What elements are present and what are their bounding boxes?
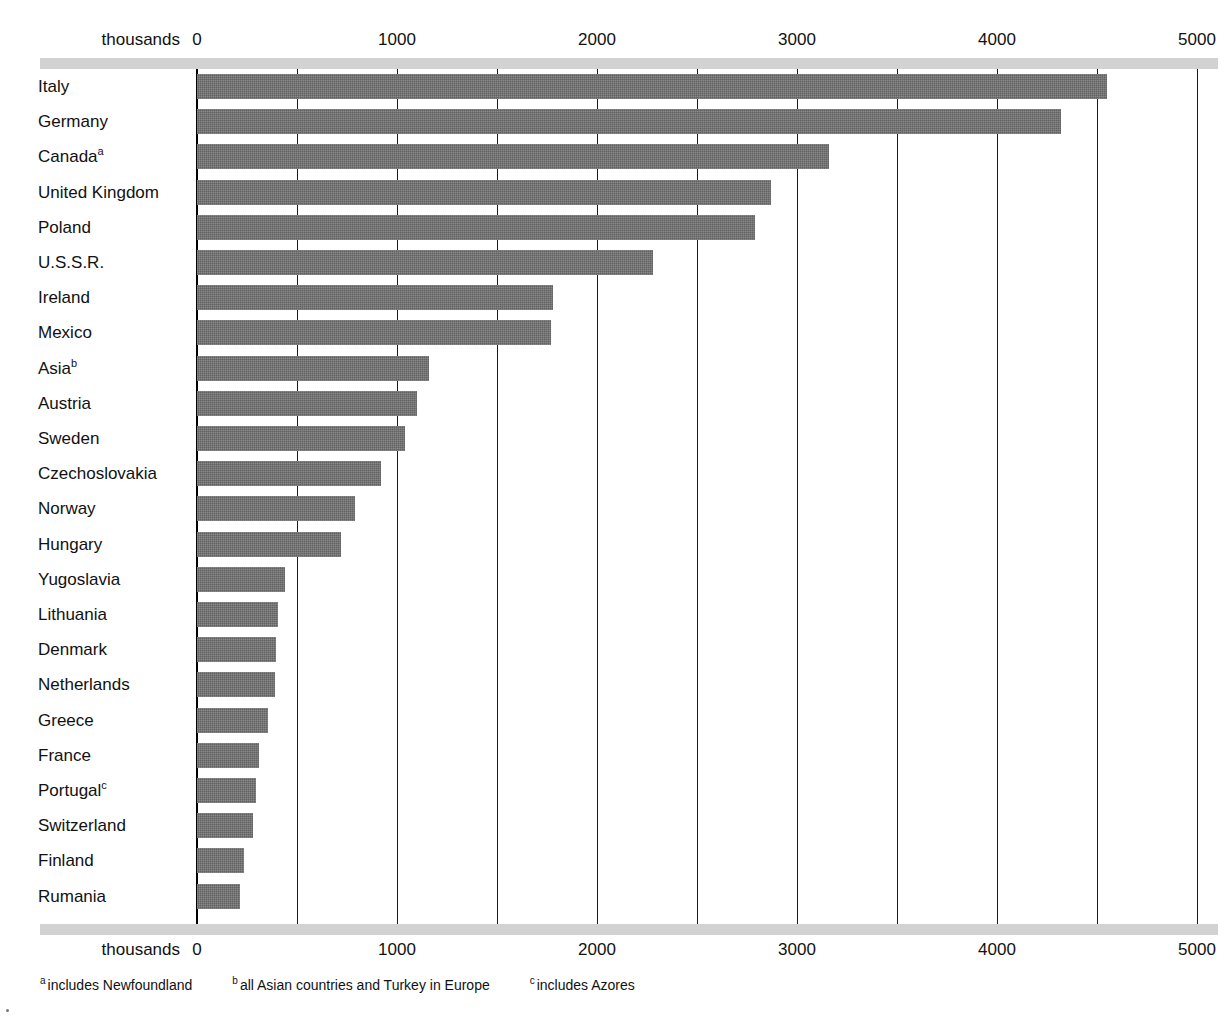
bar: [197, 461, 381, 486]
bar-category-label: Ireland: [38, 280, 90, 315]
axis-tick-label-top-4000: 4000: [978, 30, 1016, 50]
footnote-marker-a: a: [40, 975, 46, 986]
footnote-marker-a: a: [98, 146, 104, 158]
footnote-b: ball Asian countries and Turkey in Europ…: [232, 977, 489, 993]
bar: [197, 567, 285, 592]
bar-category-label: Rumania: [38, 879, 106, 914]
bar-category-label: Mexico: [38, 315, 92, 350]
bar-category-label: Greece: [38, 703, 94, 738]
bar-category-label: Switzerland: [38, 808, 126, 843]
bar-row: Hungary: [0, 527, 1231, 562]
bar-chart: thousands 010002000300040005000 ItalyGer…: [0, 0, 1231, 1021]
bottom-axis-units-label: thousands: [75, 940, 180, 960]
bar: [197, 144, 829, 169]
bar: [197, 813, 253, 838]
bar-category-label: Netherlands: [38, 667, 130, 702]
bar-category-label: Italy: [38, 69, 69, 104]
bottom-axis: thousands 010002000300040005000: [0, 940, 1231, 966]
axis-tick-label-bottom-3000: 3000: [778, 940, 816, 960]
footnote-marker-c: c: [101, 779, 107, 791]
footnote-marker-c: c: [530, 975, 535, 986]
bar: [197, 180, 771, 205]
footnote-marker-b: b: [71, 357, 77, 369]
bar: [197, 672, 275, 697]
bar-row: Czechoslovakia: [0, 456, 1231, 491]
axis-tick-label-bottom-0: 0: [192, 940, 201, 960]
top-rule-band: [40, 58, 1218, 69]
plot-area: ItalyGermanyCanadaaUnited KingdomPolandU…: [0, 69, 1231, 925]
bar-row: Yugoslavia: [0, 562, 1231, 597]
bar-row: Sweden: [0, 421, 1231, 456]
bar-category-label: Germany: [38, 104, 108, 139]
axis-tick-label-bottom-1000: 1000: [378, 940, 416, 960]
bar-row: Switzerland: [0, 808, 1231, 843]
bar-row: Lithuania: [0, 597, 1231, 632]
bar-row: United Kingdom: [0, 175, 1231, 210]
bar: [197, 743, 259, 768]
axis-tick-label-bottom-4000: 4000: [978, 940, 1016, 960]
bar: [197, 496, 355, 521]
bar-category-label: Portugalc: [38, 773, 107, 808]
bar: [197, 109, 1061, 134]
bar-category-label: U.S.S.R.: [38, 245, 104, 280]
bar-category-label: Denmark: [38, 632, 107, 667]
bar: [197, 320, 551, 345]
top-axis-units-label: thousands: [75, 30, 180, 50]
corner-dot-mark: [6, 1009, 9, 1012]
bar: [197, 391, 417, 416]
bar-row: Austria: [0, 386, 1231, 421]
bar-row: Greece: [0, 703, 1231, 738]
axis-tick-label-top-5000: 5000: [1178, 30, 1216, 50]
bar-category-label: Austria: [38, 386, 91, 421]
bar-category-label: France: [38, 738, 91, 773]
bar-row: Canadaa: [0, 139, 1231, 174]
bar-category-label: Canadaa: [38, 139, 104, 174]
bar-row: U.S.S.R.: [0, 245, 1231, 280]
axis-tick-label-top-2000: 2000: [578, 30, 616, 50]
bar-row: Asiab: [0, 351, 1231, 386]
bar-row: Denmark: [0, 632, 1231, 667]
bar: [197, 884, 240, 909]
bar-row: Ireland: [0, 280, 1231, 315]
bar-row: Italy: [0, 69, 1231, 104]
bar: [197, 708, 268, 733]
bar: [197, 250, 653, 275]
bar: [197, 848, 244, 873]
axis-tick-label-bottom-5000: 5000: [1178, 940, 1216, 960]
bar-category-label: United Kingdom: [38, 175, 159, 210]
axis-tick-label-top-3000: 3000: [778, 30, 816, 50]
bar-category-label: Czechoslovakia: [38, 456, 157, 491]
bar: [197, 532, 341, 557]
bar: [197, 74, 1107, 99]
axis-tick-label-top-0: 0: [192, 30, 201, 50]
bar: [197, 215, 755, 240]
bar-row: Germany: [0, 104, 1231, 139]
top-axis: thousands 010002000300040005000: [0, 30, 1231, 56]
bottom-rule-band: [40, 924, 1218, 935]
bar-row: France: [0, 738, 1231, 773]
bar-row: Portugalc: [0, 773, 1231, 808]
bar-row: Norway: [0, 491, 1231, 526]
bar: [197, 426, 405, 451]
bar: [197, 637, 276, 662]
bar-category-label: Hungary: [38, 527, 102, 562]
footnote-a: aincludes Newfoundland: [40, 977, 192, 993]
bar: [197, 356, 429, 381]
bar-row: Rumania: [0, 879, 1231, 914]
axis-tick-label-top-1000: 1000: [378, 30, 416, 50]
bar: [197, 602, 278, 627]
bar: [197, 778, 256, 803]
bar-category-label: Norway: [38, 491, 96, 526]
footnote-c: cincludes Azores: [530, 977, 635, 993]
bar-category-label: Poland: [38, 210, 91, 245]
bar-category-label: Finland: [38, 843, 94, 878]
bar-row: Netherlands: [0, 667, 1231, 702]
bar: [197, 285, 553, 310]
bar-category-label: Sweden: [38, 421, 99, 456]
bar-category-label: Lithuania: [38, 597, 107, 632]
bar-row: Finland: [0, 843, 1231, 878]
bar-category-label: Asiab: [38, 351, 77, 386]
bar-row: Poland: [0, 210, 1231, 245]
footnotes: aincludes Newfoundlandball Asian countri…: [40, 977, 1200, 993]
footnote-marker-b: b: [232, 975, 238, 986]
